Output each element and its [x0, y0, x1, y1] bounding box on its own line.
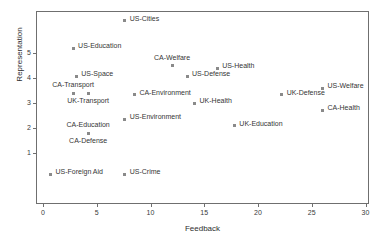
data-point-label: US-Health	[222, 62, 254, 70]
x-tick-mark	[204, 204, 205, 207]
data-point-label: US-Education	[78, 42, 121, 50]
y-tick-mark	[33, 153, 36, 154]
x-tick-mark	[151, 204, 152, 207]
data-point-label: CA-Environment	[139, 89, 190, 97]
y-tick-label: 4	[27, 74, 31, 82]
data-point-marker	[123, 118, 126, 121]
x-tick-label: 10	[147, 209, 155, 217]
y-tick-mark	[33, 103, 36, 104]
data-point-marker	[49, 173, 52, 176]
x-tick-label: 5	[95, 209, 99, 217]
data-point-label: CA-Education	[67, 121, 110, 129]
x-tick-label: 20	[254, 209, 262, 217]
data-point-label: UK-Health	[200, 97, 232, 105]
x-tick-mark	[43, 204, 44, 207]
data-point-label: CA-Transport	[52, 81, 94, 89]
y-tick-mark	[33, 128, 36, 129]
data-point-label: CA-Defense	[69, 137, 107, 145]
data-point-marker	[75, 75, 78, 78]
data-point-label: US-Foreign Aid	[56, 168, 103, 176]
data-point-marker	[133, 93, 136, 96]
data-point-marker	[87, 132, 90, 135]
data-point-label: US-Crime	[130, 168, 161, 176]
data-point-label: UK-Transport	[67, 97, 109, 105]
data-point-marker	[123, 173, 126, 176]
scatter-chart: US-CitiesUS-EducationCA-WelfareUS-Health…	[0, 0, 384, 244]
data-point-marker	[193, 102, 196, 105]
y-tick-mark	[33, 53, 36, 54]
x-tick-mark	[366, 204, 367, 207]
x-tick-label: 30	[362, 209, 370, 217]
x-axis-title: Feedback	[36, 224, 369, 233]
x-tick-mark	[97, 204, 98, 207]
data-point-label: UK-Defense	[287, 89, 325, 97]
y-tick-mark	[33, 78, 36, 79]
data-point-label: CA-Welfare	[154, 54, 190, 62]
data-point-label: UK-Education	[239, 120, 282, 128]
y-tick-label: 5	[27, 49, 31, 57]
data-point-marker	[171, 64, 174, 67]
data-point-label: US-Environment	[130, 113, 181, 121]
data-point-label: US-Welfare	[328, 82, 364, 90]
data-point-label: US-Defense	[192, 70, 230, 78]
x-tick-mark	[258, 204, 259, 207]
data-point-marker	[72, 47, 75, 50]
data-point-label: US-Space	[81, 70, 113, 78]
data-point-marker	[233, 124, 236, 127]
data-point-marker	[87, 92, 90, 95]
data-point-label: CA-Health	[328, 104, 360, 112]
x-tick-label: 15	[200, 209, 208, 217]
y-tick-label: 2	[27, 124, 31, 132]
data-point-marker	[280, 93, 283, 96]
x-tick-label: 0	[41, 209, 45, 217]
data-point-marker	[123, 19, 126, 22]
data-point-marker	[72, 92, 75, 95]
x-tick-label: 25	[308, 209, 316, 217]
y-tick-label: 3	[27, 99, 31, 107]
y-axis-title: Representation	[15, 0, 24, 110]
data-point-marker	[186, 75, 189, 78]
x-tick-mark	[312, 204, 313, 207]
y-tick-label: 1	[27, 149, 31, 157]
data-point-marker	[321, 109, 324, 112]
data-point-label: US-Cities	[130, 15, 160, 23]
